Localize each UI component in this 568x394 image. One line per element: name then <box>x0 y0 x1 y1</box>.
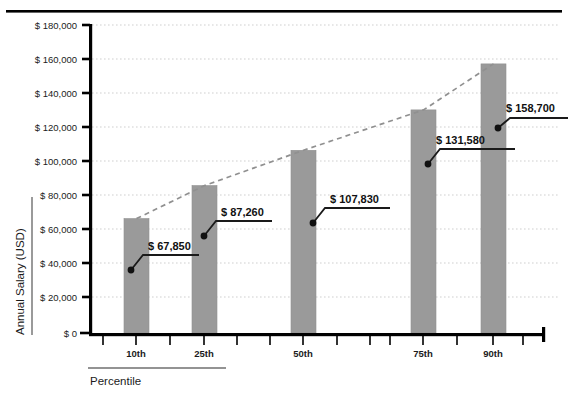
bar-75th[interactable] <box>411 110 436 333</box>
salary-percentile-chart: $ 180,000 $ 160,000 $ 140,000 $ 120,000 … <box>0 0 568 394</box>
y-tick-label-160000: $ 160,000 <box>35 54 77 65</box>
x-axis-line <box>89 333 545 336</box>
y-tick-label-180000: $ 180,000 <box>35 20 77 31</box>
x-axis-end-cap <box>542 327 545 342</box>
chart-svg: $ 180,000 $ 160,000 $ 140,000 $ 120,000 … <box>0 0 568 394</box>
callout-label-25th: $ 87,260 <box>221 206 264 218</box>
y-tick-label-0: $ 0 <box>64 328 77 339</box>
callout-label-75th: $ 131,580 <box>436 134 485 146</box>
top-rule <box>6 10 562 13</box>
x-tick-label-10th: 10th <box>126 348 146 359</box>
bar-25th[interactable] <box>192 186 217 333</box>
x-tick-label-90th: 90th <box>483 348 503 359</box>
y-tick-label-100000: $ 100,000 <box>35 156 77 167</box>
y-tick-label-120000: $ 120,000 <box>35 122 77 133</box>
bar-90th[interactable] <box>481 64 506 333</box>
y-tick-label-20000: $ 20,000 <box>40 292 77 303</box>
callout-50th: $ 107,830 <box>310 193 390 226</box>
y-axis-title: Annual Salary (USD) <box>14 228 26 335</box>
y-tick-label-60000: $ 60,000 <box>40 224 77 235</box>
callout-label-10th: $ 67,850 <box>148 240 191 252</box>
y-tick-label-140000: $ 140,000 <box>35 88 77 99</box>
x-tick-label-75th: 75th <box>413 348 433 359</box>
y-tick-label-80000: $ 80,000 <box>40 190 77 201</box>
x-tick-label-50th: 50th <box>293 348 313 359</box>
y-tick-label-40000: $ 40,000 <box>40 258 77 269</box>
bars <box>124 64 506 333</box>
bar-10th[interactable] <box>124 219 149 333</box>
x-axis-title: Percentile <box>90 375 141 387</box>
x-tick-label-25th: 25th <box>194 348 214 359</box>
bar-50th[interactable] <box>291 150 316 333</box>
x-axis-ticks <box>103 336 523 345</box>
y-axis-line <box>89 24 92 334</box>
callout-label-90th: $ 158,700 <box>506 102 555 114</box>
callout-label-50th: $ 107,830 <box>330 193 379 205</box>
